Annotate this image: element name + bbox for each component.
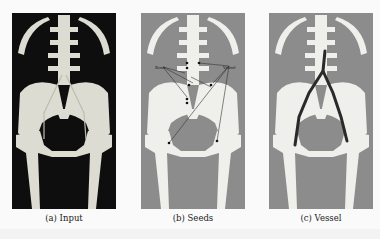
panel-seeds-image: Bone Vessel [141, 13, 245, 209]
caption-vessel: (c) Vessel [261, 213, 380, 223]
panel-vessel-image [269, 13, 373, 209]
caption-input: (a) Input [4, 213, 124, 223]
seed-label-vessel: Vessel [222, 65, 236, 70]
seed-label-bone: Bone [155, 65, 166, 70]
page-bottom-text-remnant [0, 229, 380, 239]
caption-seeds: (b) Seeds [133, 213, 253, 223]
panel-input-image [12, 13, 116, 209]
